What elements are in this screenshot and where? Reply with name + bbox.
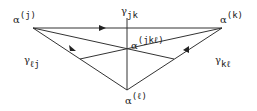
arrow-jk (99, 25, 106, 31)
triangle-diagram: α(j) α(k) α(ℓ) α(jkℓ) γjk γkℓ γℓj (0, 0, 257, 111)
node-label-l: α(ℓ) (125, 91, 147, 106)
node-label-k: α(k) (220, 10, 243, 25)
arrow-lj (69, 45, 76, 51)
edge-label-lj: γℓj (24, 54, 40, 69)
node-label-j: α(j) (13, 10, 36, 25)
node-label-jkl: α(jkℓ) (131, 35, 164, 51)
edge-label-jk: γjk (121, 5, 138, 20)
edge-label-kl: γkℓ (215, 54, 231, 69)
